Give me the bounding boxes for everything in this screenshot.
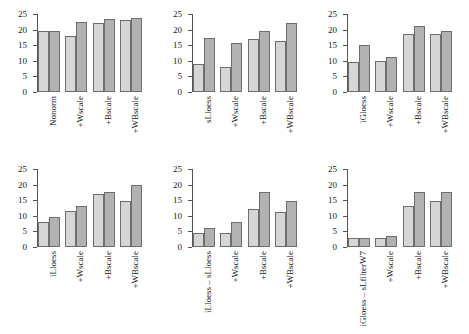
- x-label-slot: +Wscale: [65, 94, 87, 154]
- y-tick-mark: [188, 169, 192, 170]
- y-tick-mark: [343, 216, 347, 217]
- bar-groups-4: [193, 169, 297, 247]
- y-tick-label: 25: [173, 165, 182, 174]
- y-tick-mark: [33, 92, 37, 93]
- bar-group: [93, 14, 115, 92]
- panel-2: 0510152025 iGloess+Wscale+Bscale+WBscale: [310, 0, 469, 155]
- x-label-slot: +Bscale: [403, 249, 425, 309]
- bar-light: [375, 238, 386, 247]
- panel-1: 0510152025 sLloess+Wscale+Bscale+WBscale: [155, 0, 310, 155]
- y-tick-label: 10: [328, 211, 337, 220]
- y-tick-mark: [343, 14, 347, 15]
- x-label-slot: +Wscale: [220, 94, 242, 154]
- x-label-slot: iLloess: [38, 249, 60, 309]
- y-tick-label: 5: [23, 227, 28, 236]
- x-tick-label: +Wscale: [386, 251, 395, 283]
- x-tick-label: +Bscale: [104, 251, 113, 280]
- bar-light: [65, 36, 76, 92]
- x-tick-label: +Bscale: [259, 251, 268, 280]
- bar-groups-3: [38, 169, 142, 247]
- y-tick-label: 10: [18, 211, 27, 220]
- bar-light: [275, 212, 286, 247]
- bar-dark: [414, 192, 425, 247]
- y-tick-mark: [33, 247, 37, 248]
- bar-light: [93, 23, 104, 92]
- x-tick-label: +Wscale: [386, 96, 395, 128]
- x-label-slot: iGloess – sLfilterW7: [348, 249, 370, 309]
- bar-light: [38, 222, 49, 247]
- bar-light: [430, 34, 441, 92]
- bar-dark: [259, 31, 270, 92]
- panel-5: 0510152025 iGloess – sLfilterW7+Wscale+B…: [310, 155, 469, 334]
- x-tick-label: +Bscale: [414, 251, 423, 280]
- bar-group: [220, 169, 242, 247]
- y-tick-mark: [343, 45, 347, 46]
- bar-groups-0: [38, 14, 142, 92]
- bar-dark: [231, 43, 242, 92]
- y-tick-label: 20: [18, 180, 27, 189]
- bar-group: [348, 14, 370, 92]
- x-axis-labels-0: Nonorm+Wscale+Bscale+WBscale: [38, 94, 142, 154]
- y-tick-mark: [33, 231, 37, 232]
- x-label-slot: Nonorm: [38, 94, 60, 154]
- bar-dark: [204, 228, 215, 247]
- bar-dark: [131, 18, 142, 92]
- bar-light: [120, 201, 131, 247]
- bar-light: [93, 194, 104, 247]
- y-tick-mark: [343, 185, 347, 186]
- x-label-slot: +WBscale: [275, 94, 297, 154]
- bar-light: [65, 211, 76, 247]
- y-tick-mark: [343, 169, 347, 170]
- bar-group: [220, 14, 242, 92]
- bar-group: [248, 14, 270, 92]
- x-axis-labels-2: iGloess+Wscale+Bscale+WBscale: [348, 94, 452, 154]
- bar-group: [348, 169, 370, 247]
- x-tick-label: iGloess – sLfilterW7: [359, 251, 368, 327]
- y-tick-mark: [188, 14, 192, 15]
- y-tick-label: 0: [178, 243, 183, 252]
- x-tick-label: +Wscale: [76, 251, 85, 283]
- x-tick-label: +WBscale: [286, 251, 295, 289]
- x-label-slot: +Bscale: [93, 94, 115, 154]
- bar-group: [430, 169, 452, 247]
- bar-dark: [441, 31, 452, 92]
- bar-group: [430, 14, 452, 92]
- bar-dark: [76, 206, 87, 247]
- y-tick-label: 0: [333, 88, 338, 97]
- x-tick-label: Nonorm: [49, 96, 58, 126]
- x-tick-label: +Wscale: [231, 96, 240, 128]
- x-tick-label: +Wscale: [76, 96, 85, 128]
- y-tick-mark: [188, 45, 192, 46]
- y-tick-mark: [343, 247, 347, 248]
- x-tick-label: iGloess: [359, 96, 368, 123]
- x-tick-label: sLloess: [204, 96, 213, 123]
- bar-dark: [49, 31, 60, 92]
- y-tick-label: 0: [23, 88, 28, 97]
- x-label-slot: iLloess – sLloess: [193, 249, 215, 309]
- bar-light: [38, 31, 49, 92]
- bar-groups-5: [348, 169, 452, 247]
- x-label-slot: +Wscale: [375, 249, 397, 309]
- bar-dark: [49, 217, 60, 247]
- bar-group: [120, 169, 142, 247]
- panel-0: 0510152025 Nonorm+Wscale+Bscale+WBscale: [0, 0, 155, 155]
- y-tick-label: 20: [173, 25, 182, 34]
- y-tick-label: 25: [328, 165, 337, 174]
- y-axis-labels-0: 0510152025: [0, 14, 33, 92]
- y-tick-label: 5: [23, 72, 28, 81]
- y-axis-labels-3: 0510152025: [0, 169, 33, 247]
- bar-light: [403, 206, 414, 247]
- x-label-slot: +Bscale: [93, 249, 115, 309]
- x-label-slot: +Wscale: [220, 249, 242, 309]
- x-tick-label: +WBscale: [286, 96, 295, 134]
- bar-light: [348, 238, 359, 247]
- bar-dark: [231, 222, 242, 247]
- x-label-slot: +WBscale: [275, 249, 297, 309]
- bar-groups-1: [193, 14, 297, 92]
- y-tick-mark: [188, 200, 192, 201]
- x-tick-label: +Bscale: [104, 96, 113, 125]
- bar-light: [193, 64, 204, 92]
- bar-dark: [104, 19, 115, 92]
- y-tick-mark: [188, 247, 192, 248]
- x-label-slot: +Wscale: [375, 94, 397, 154]
